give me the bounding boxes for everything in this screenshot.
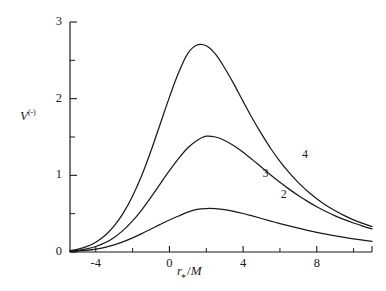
y-tick-label: 3 [40,14,62,29]
y-axis-title-superscript: (-) [28,108,35,117]
x-tick-label: -4 [76,256,116,271]
curve-4 [70,44,372,250]
curves-group [70,44,372,251]
curve-2 [70,208,372,251]
x-axis-title-subscript: * [181,272,186,283]
x-tick-label: 4 [223,256,263,271]
y-tick-label: 1 [40,167,62,182]
x-tick-label: 0 [149,256,189,271]
y-axis-title-variable: V [20,108,28,123]
curve-label-4: 4 [302,147,308,162]
x-axis-title-denominator: M [191,263,202,278]
y-tick-label: 2 [40,91,62,106]
y-tick-label: 0 [40,244,62,259]
axes-group [70,22,372,252]
figure-container: V(-) r*/M -40480123 234 [0,0,386,291]
curve-label-2: 2 [281,187,287,202]
curve-label-3: 3 [262,166,268,181]
y-axis-title: V(-) [20,108,35,124]
x-tick-label: 8 [297,256,337,271]
